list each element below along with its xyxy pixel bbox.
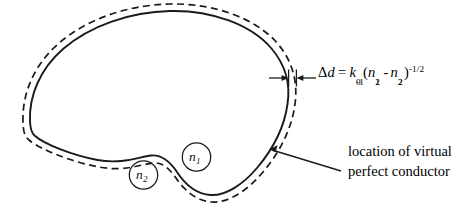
- index-n1-sub: 1: [196, 156, 201, 166]
- index-n2-sub: 2: [143, 174, 148, 184]
- equation-final-exponent: -1/2: [409, 64, 424, 74]
- caption-leader-shaft: [272, 150, 341, 171]
- virtual-conductor-caption: location of virtual perfect conductor: [348, 141, 452, 181]
- diagram-svg: [0, 0, 467, 214]
- caption-line-2: perfect conductor: [348, 161, 452, 181]
- equation-n1: n: [368, 64, 375, 80]
- equation-equals: =: [335, 64, 350, 80]
- equation-n2: n: [391, 64, 398, 80]
- equation-d: d: [327, 64, 334, 80]
- gap-equation: Δd=k0-1(n12-n22)-1/2: [318, 64, 424, 81]
- caption-line-1: location of virtual: [348, 141, 452, 161]
- equation-n2-sup: 2: [398, 77, 403, 87]
- solid-dielectric-boundary: [30, 11, 288, 195]
- index-n1-label: n1: [189, 150, 200, 164]
- index-n2-base: n: [136, 167, 143, 182]
- index-n2-label: n2: [136, 168, 147, 182]
- index-n1-base: n: [189, 149, 196, 164]
- equation-n1-sup: 2: [375, 77, 380, 87]
- equation-minus: -: [381, 64, 390, 80]
- equation-k-sup: -1: [356, 77, 364, 87]
- gap-arrow-right-head: [297, 75, 304, 81]
- figure-canvas: n1 n2 Δd=k0-1(n12-n22)-1/2 location of v…: [0, 0, 467, 214]
